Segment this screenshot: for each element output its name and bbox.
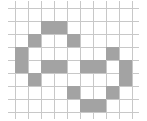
grid-cell-filled — [106, 86, 119, 99]
gridline-horizontal — [8, 8, 139, 9]
gridline-horizontal — [8, 21, 139, 22]
grid-cell-filled — [67, 34, 80, 47]
gridline-horizontal — [8, 99, 139, 100]
grid-cell-filled — [28, 34, 41, 47]
grid-cell-filled — [80, 60, 93, 73]
grid-cell-filled — [41, 60, 54, 73]
grid-cell-filled — [15, 47, 28, 60]
grid-cell-filled — [106, 47, 119, 60]
grid-cell-filled — [119, 73, 132, 86]
grid-cell-filled — [54, 21, 67, 34]
grid-cell-filled — [28, 73, 41, 86]
grid-cell-filled — [15, 60, 28, 73]
grid-cell-filled — [93, 60, 106, 73]
gridline-horizontal — [8, 112, 139, 113]
grid-cell-filled — [67, 86, 80, 99]
grid-cell-filled — [80, 99, 93, 112]
grid-pattern-figure — [0, 0, 147, 121]
grid-cell-filled — [54, 60, 67, 73]
grid-cell-filled — [93, 99, 106, 112]
grid-cell-filled — [119, 60, 132, 73]
grid-cell-filled — [41, 21, 54, 34]
